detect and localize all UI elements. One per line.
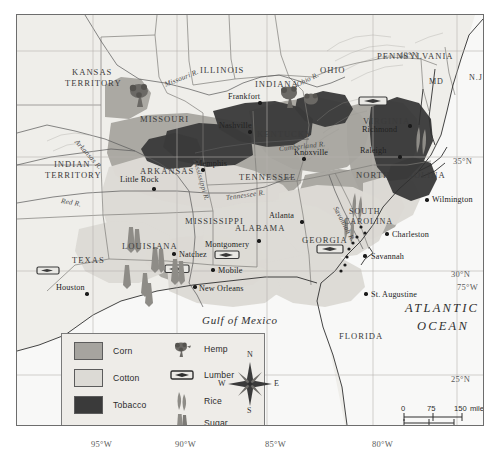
latitude-label: 40°N — [399, 50, 418, 60]
legend-label-tobacco: Tobacco — [113, 400, 146, 410]
corn-swatch — [74, 342, 103, 360]
city-marker-dot — [193, 285, 196, 288]
scale-miles-tick-150: 150 — [454, 404, 467, 413]
compass-north-label: N — [247, 350, 253, 359]
longitude-label: 95°W — [91, 439, 112, 449]
latitude-label: 25°N — [451, 374, 470, 384]
state-label: DEL. — [483, 98, 484, 107]
hemp-icon — [170, 340, 194, 358]
latitude-label: 30°N — [451, 269, 470, 279]
city-marker-dot — [408, 124, 411, 127]
tobacco-swatch — [74, 396, 103, 414]
city-marker-dot — [363, 254, 366, 257]
longitude-label: 90°W — [175, 439, 196, 449]
city-marker-dot — [425, 198, 428, 201]
legend-item-tobacco: Tobacco — [74, 396, 146, 414]
city-marker-dot — [248, 130, 251, 133]
legend-item-corn: Corn — [74, 342, 132, 360]
lumber-symbol-virginia — [359, 97, 387, 105]
city-marker-dot — [211, 268, 214, 271]
city-marker-dot — [302, 157, 305, 160]
map-frame: KANSASTERRITORYILLINOISINDIANAOHIOPENNSY… — [16, 14, 484, 426]
city-marker-dot — [258, 101, 261, 104]
legend-label-cotton: Cotton — [113, 373, 140, 383]
map-root: KANSASTERRITORYILLINOISINDIANAOHIOPENNSY… — [0, 0, 498, 466]
lumber-icon — [170, 366, 194, 384]
city-marker-dot — [257, 239, 260, 242]
longitude-label: 85°W — [265, 439, 286, 449]
scale-bar: 0 75 150 miles 0 75 150 kilometers — [400, 405, 484, 426]
latitude-label: 35°N — [453, 156, 472, 166]
compass-south-label: S — [247, 406, 251, 415]
city-marker-dot — [85, 292, 88, 295]
scale-miles-tick-0: 0 — [401, 404, 405, 413]
legend-label-corn: Corn — [113, 346, 132, 356]
lumber-symbol-alabama — [215, 251, 239, 259]
city-marker-dot — [300, 220, 303, 223]
longitude-label: 75°W — [457, 282, 478, 292]
compass-rose: N S E W — [215, 351, 285, 417]
city-marker-dot — [398, 155, 401, 158]
city-marker-dot — [152, 187, 155, 190]
longitude-label: 80°W — [372, 439, 393, 449]
city-marker-dot — [385, 232, 388, 235]
cotton-swatch — [74, 369, 103, 387]
compass-west-label: W — [218, 379, 226, 388]
lumber-symbol-gulf-coast — [37, 267, 59, 274]
legend-label-sugar: Sugar — [204, 418, 228, 426]
hemp-symbol-kentucky-east — [304, 93, 318, 104]
sugar-icon — [170, 414, 194, 426]
lumber-symbol-georgia — [317, 245, 343, 253]
city-marker-dot — [201, 168, 204, 171]
scale-miles-unit: miles — [470, 404, 484, 413]
rice-icon — [170, 392, 194, 410]
compass-east-label: E — [274, 379, 279, 388]
legend-item-cotton: Cotton — [74, 369, 140, 387]
city-marker-dot — [364, 292, 367, 295]
scale-miles-tick-75: 75 — [427, 404, 435, 413]
city-marker-dot — [172, 252, 175, 255]
